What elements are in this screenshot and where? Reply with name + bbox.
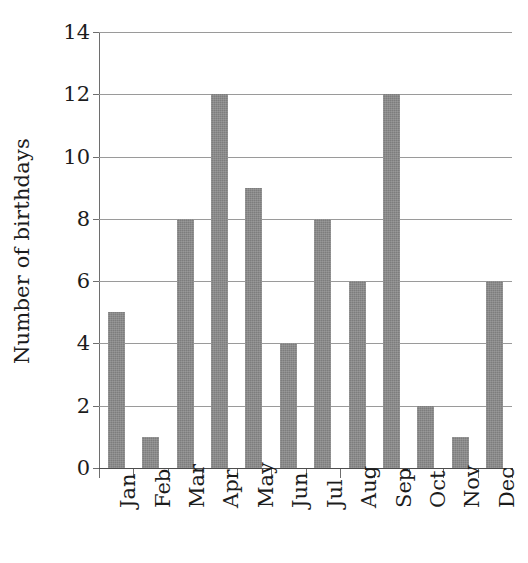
bar-feb[interactable] bbox=[142, 437, 159, 468]
x-tick-label-text: Jun bbox=[288, 492, 312, 508]
y-tick-label-14: 14 bbox=[52, 20, 90, 44]
y-axis-title-text: Number of birthdays bbox=[10, 137, 34, 363]
y-tick-label-8: 8 bbox=[52, 207, 90, 231]
x-tick-label-text: Sep bbox=[392, 492, 416, 508]
bar-aug[interactable] bbox=[349, 281, 366, 468]
y-tick-label-2: 2 bbox=[52, 394, 90, 418]
bar-may[interactable] bbox=[245, 188, 262, 468]
y-axis-title: Number of birthdays bbox=[0, 32, 44, 469]
bar-jul[interactable] bbox=[314, 219, 331, 468]
y-tick-label-10: 10 bbox=[52, 145, 90, 169]
x-tick-label-dec: Dec bbox=[495, 492, 519, 508]
plot-area bbox=[99, 32, 512, 468]
bar-jan[interactable] bbox=[108, 312, 125, 468]
x-tick-label-apr: Apr bbox=[219, 492, 243, 508]
bar-dec[interactable] bbox=[486, 281, 503, 468]
bar-sep[interactable] bbox=[383, 94, 400, 468]
x-tick-mark-7 bbox=[340, 469, 341, 478]
bar-series bbox=[99, 32, 512, 468]
x-tick-label-text: Apr bbox=[219, 492, 243, 508]
y-tick-label-6: 6 bbox=[52, 269, 90, 293]
x-tick-label-text: May bbox=[254, 492, 278, 508]
x-tick-label-text: Mar bbox=[185, 492, 209, 508]
y-axis-tick-labels: 02468101214 bbox=[50, 0, 90, 563]
bar-mar[interactable] bbox=[177, 219, 194, 468]
x-tick-mark-0 bbox=[99, 469, 100, 478]
bar-nov[interactable] bbox=[452, 437, 469, 468]
x-tick-label-mar: Mar bbox=[185, 492, 209, 508]
x-tick-label-text: Aug bbox=[357, 492, 381, 508]
x-tick-label-text: Jan bbox=[116, 492, 140, 508]
x-tick-label-text: Jul bbox=[323, 492, 347, 508]
x-tick-label-text: Nov bbox=[460, 492, 484, 508]
x-tick-label-feb: Feb bbox=[151, 492, 175, 508]
x-tick-label-may: May bbox=[254, 492, 278, 508]
x-tick-label-text: Oct bbox=[426, 492, 450, 508]
y-tick-label-12: 12 bbox=[52, 82, 90, 106]
bar-chart: Number of birthdays 02468101214 JanFebMa… bbox=[0, 0, 528, 563]
y-tick-label-4: 4 bbox=[52, 331, 90, 355]
x-tick-label-oct: Oct bbox=[426, 492, 450, 508]
bar-oct[interactable] bbox=[417, 406, 434, 468]
bar-apr[interactable] bbox=[211, 94, 228, 468]
x-tick-label-jul: Jul bbox=[323, 492, 347, 508]
bar-jun[interactable] bbox=[280, 343, 297, 468]
x-tick-label-nov: Nov bbox=[460, 492, 484, 508]
x-tick-label-aug: Aug bbox=[357, 492, 381, 508]
x-tick-label-sep: Sep bbox=[392, 492, 416, 508]
x-tick-label-text: Feb bbox=[151, 492, 175, 508]
x-tick-label-jan: Jan bbox=[116, 492, 140, 508]
x-tick-label-jun: Jun bbox=[288, 492, 312, 508]
y-tick-label-0: 0 bbox=[52, 456, 90, 480]
x-tick-label-text: Dec bbox=[495, 492, 519, 508]
